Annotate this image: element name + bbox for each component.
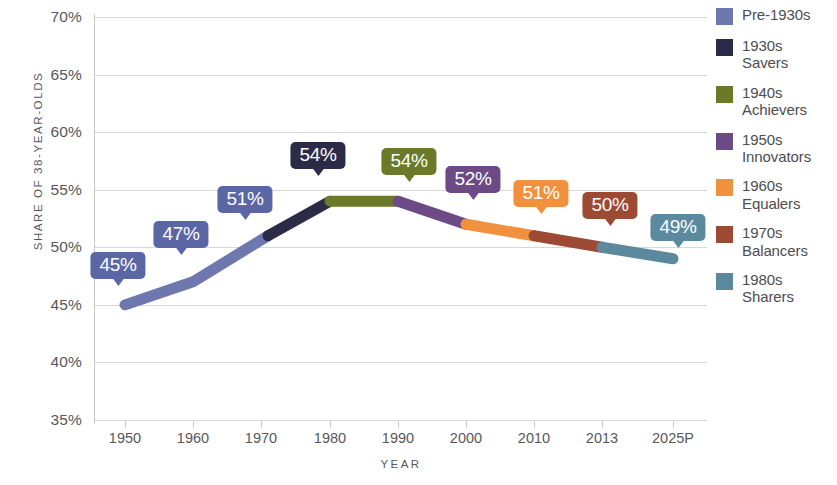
data-label-value: 54% [390,150,427,171]
legend-item[interactable]: 1940sAchievers [716,84,837,119]
legend: Pre-1930s1930sSavers1940sAchievers1950sI… [716,6,837,318]
legend-color-swatch [716,226,733,243]
gridline [95,420,707,421]
y-axis-tick-label: 55% [26,181,82,199]
legend-color-swatch [716,8,733,25]
legend-label: 1980sSharers [742,271,794,306]
x-axis-tick-mark [602,421,603,428]
y-axis-tick-label: 70% [26,8,82,26]
legend-color-swatch [716,133,733,150]
legend-item[interactable]: 1980sSharers [716,271,837,306]
legend-color-swatch [716,273,733,290]
line-segment [602,247,673,259]
x-axis-tick-mark [398,421,399,428]
x-axis-tick-mark [534,421,535,428]
data-label-callout: 51% [513,180,568,207]
y-axis-title: SHARE OF 38-YEAR-OLDS [32,61,44,261]
x-axis-tick-label: 2025P [638,430,708,446]
data-label-value: 45% [99,254,136,275]
legend-color-swatch [716,39,733,56]
data-label-callout: 49% [650,214,705,241]
x-axis-tick-mark [193,421,194,428]
x-axis-tick-label: 1970 [226,430,296,446]
x-axis-title: YEAR [95,458,707,470]
legend-label: 1950sInnovators [742,131,811,166]
y-axis-tick-label: 45% [26,296,82,314]
gridline [95,362,707,363]
x-axis-tick-label: 1960 [158,430,228,446]
x-axis-tick-label: 1980 [295,430,365,446]
gridline [95,75,707,76]
data-label-value: 52% [454,168,491,189]
line-segment [398,201,466,224]
gridline [95,17,707,18]
data-label-callout: 52% [445,166,500,193]
data-label-value: 51% [226,188,263,209]
data-label-callout: 45% [90,252,145,279]
y-axis-tick-label: 65% [26,66,82,84]
data-label-value: 49% [659,216,696,237]
x-axis-tick-mark [261,421,262,428]
x-axis-tick-mark [673,421,674,428]
legend-label: 1930sSavers [742,37,788,72]
x-axis-tick-label: 1990 [363,430,433,446]
line-segment [534,236,602,248]
y-axis-tick-label: 40% [26,353,82,371]
gridline [95,190,707,191]
chart-figure: SHARE OF 38-YEAR-OLDS 70%65%60%55%50%45%… [0,0,837,485]
data-label-value: 47% [162,223,199,244]
x-axis-tick-mark [125,421,126,428]
gridline [95,132,707,133]
data-label-callout: 51% [217,186,272,213]
legend-item[interactable]: 1970sBalancers [716,224,837,259]
x-axis-tick-mark [330,421,331,428]
legend-label: 1970sBalancers [742,224,808,259]
legend-item[interactable]: Pre-1930s [716,6,837,25]
legend-label: Pre-1930s [742,6,810,23]
data-label-callout: 54% [381,148,436,175]
line-segment [268,201,330,236]
data-label-callout: 50% [582,192,637,219]
legend-color-swatch [716,86,733,103]
y-axis-tick-label: 35% [26,411,82,429]
legend-item[interactable]: 1950sInnovators [716,131,837,166]
legend-label: 1940sAchievers [742,84,807,119]
data-label-value: 51% [522,182,559,203]
legend-item[interactable]: 1930sSavers [716,37,837,72]
data-label-value: 54% [299,144,336,165]
y-axis-tick-label: 60% [26,123,82,141]
legend-item[interactable]: 1960sEqualers [716,177,837,212]
data-label-callout: 47% [153,221,208,248]
legend-color-swatch [716,179,733,196]
legend-label: 1960sEqualers [742,177,800,212]
data-label-callout: 54% [290,142,345,169]
data-label-value: 50% [591,194,628,215]
x-axis-tick-label: 2010 [499,430,569,446]
line-segment [466,224,534,236]
y-axis-tick-label: 50% [26,238,82,256]
x-axis-tick-label: 2013 [567,430,637,446]
x-axis-tick-label: 1950 [90,430,160,446]
gridline [95,305,707,306]
y-axis-line [94,14,95,424]
x-axis-tick-mark [466,421,467,428]
x-axis-tick-label: 2000 [431,430,501,446]
